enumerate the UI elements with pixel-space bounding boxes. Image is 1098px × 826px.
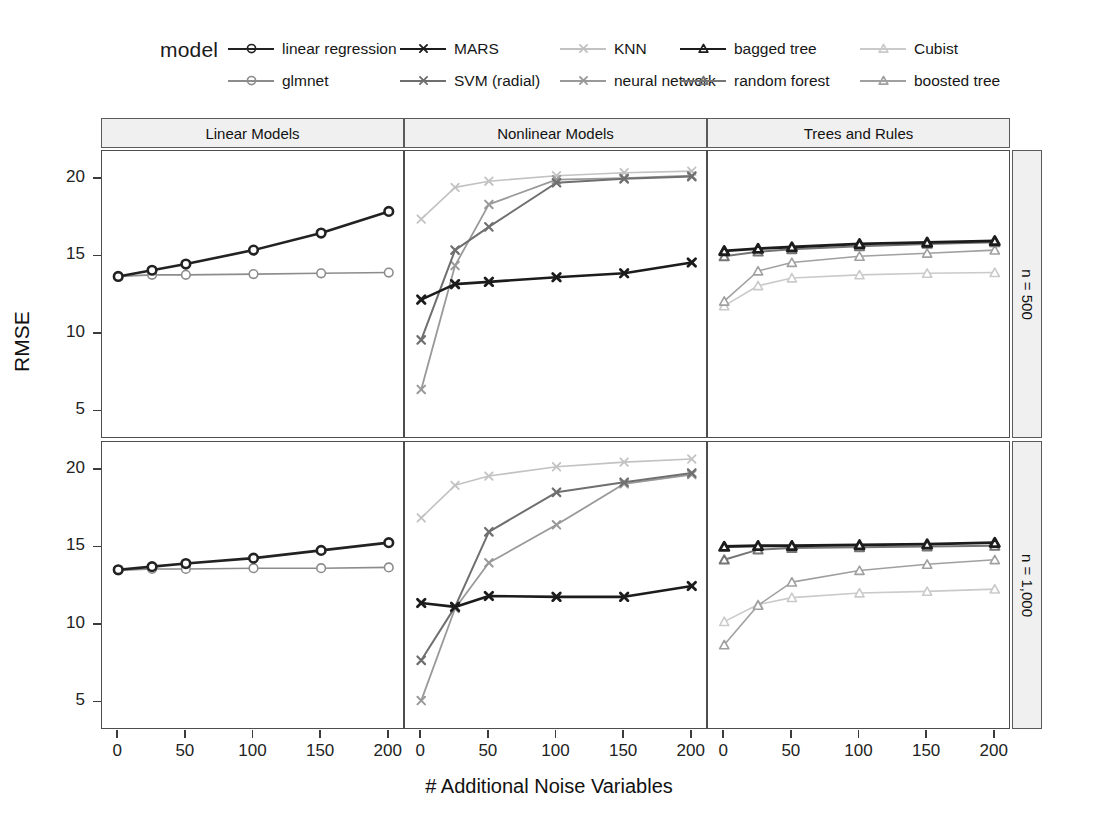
y-tick-label: 5: [51, 399, 85, 419]
data-point: [384, 268, 393, 277]
x-tick-label: 50: [468, 741, 508, 761]
series-knn: [417, 455, 695, 521]
y-tick-label: 15: [51, 244, 85, 264]
data-point: [417, 215, 425, 223]
panel-trees-and-rules-n-1-000: [707, 441, 1010, 729]
data-point: [923, 238, 932, 246]
data-point: [787, 541, 796, 549]
facet-strip-row-2: n = 1,000: [1012, 441, 1042, 729]
x-axis-label: # Additional Noise Variables: [0, 775, 1098, 798]
data-point: [753, 541, 762, 549]
x-tick-mark: [487, 730, 489, 738]
data-point: [249, 564, 258, 573]
data-point: [114, 565, 123, 574]
x-tick-label: 150: [300, 741, 340, 761]
plot-area: Linear ModelsNonlinear ModelsTrees and R…: [0, 0, 1098, 826]
x-tick-mark: [858, 730, 860, 738]
x-tick-mark: [387, 730, 389, 738]
facet-strip-label: n = 1,000: [1019, 554, 1036, 617]
data-point: [753, 244, 762, 252]
panel-nonlinear-models-n-500: [404, 150, 707, 438]
x-tick-label: 150: [603, 741, 643, 761]
data-point: [855, 541, 864, 549]
x-tick-label: 0: [97, 741, 137, 761]
y-tick-mark: [93, 410, 101, 412]
y-tick-mark: [93, 701, 101, 703]
data-point: [485, 223, 493, 231]
y-tick-mark: [93, 546, 101, 548]
facet-strip-row-1: n = 500: [1012, 150, 1042, 438]
x-tick-label: 0: [400, 741, 440, 761]
panel-trees-and-rules-n-500: [707, 150, 1010, 438]
data-point: [182, 271, 191, 280]
data-point: [249, 270, 258, 279]
y-tick-label: 20: [51, 167, 85, 187]
chart-root: model linear regressionglmnetMARSSVM (ra…: [0, 0, 1098, 826]
series-neural-network: [417, 471, 695, 705]
data-point: [317, 229, 326, 238]
series-knn: [417, 167, 695, 223]
data-point: [114, 272, 123, 281]
data-point: [417, 697, 425, 705]
x-tick-label: 0: [703, 741, 743, 761]
data-point: [417, 514, 425, 522]
series-bagged-tree: [720, 538, 1000, 550]
series-mars: [417, 259, 695, 304]
data-point: [990, 236, 999, 244]
data-point: [417, 657, 425, 665]
data-point: [384, 207, 393, 216]
series-svm-radial-: [417, 469, 695, 664]
y-tick-label: 15: [51, 535, 85, 555]
data-point: [317, 564, 326, 573]
series-cubist: [720, 585, 1000, 626]
facet-strip-label: Trees and Rules: [804, 125, 914, 142]
x-tick-mark: [116, 730, 118, 738]
panel-nonlinear-models-n-1-000: [404, 441, 707, 729]
x-tick-mark: [622, 730, 624, 738]
data-point: [855, 240, 864, 248]
facet-strip-column-3: Trees and Rules: [707, 118, 1010, 148]
facet-strip-label: n = 500: [1019, 269, 1036, 319]
data-point: [485, 201, 493, 209]
x-tick-mark: [925, 730, 927, 738]
facet-strip-column-1: Linear Models: [101, 118, 404, 148]
x-tick-label: 50: [771, 741, 811, 761]
data-point: [485, 528, 493, 536]
x-tick-label: 50: [165, 741, 205, 761]
data-point: [923, 540, 932, 548]
y-tick-mark: [93, 332, 101, 334]
series-boosted-tree: [720, 555, 1000, 648]
data-point: [384, 563, 393, 572]
data-point: [553, 521, 561, 529]
data-point: [317, 546, 326, 555]
data-point: [787, 243, 796, 251]
data-point: [182, 559, 191, 568]
x-tick-mark: [690, 730, 692, 738]
data-point: [317, 269, 326, 278]
x-tick-mark: [184, 730, 186, 738]
y-tick-label: 10: [51, 613, 85, 633]
facet-strip-column-2: Nonlinear Models: [404, 118, 707, 148]
facet-strip-label: Nonlinear Models: [497, 125, 614, 142]
y-tick-label: 20: [51, 458, 85, 478]
y-tick-mark: [93, 255, 101, 257]
x-tick-label: 150: [906, 741, 946, 761]
x-tick-mark: [555, 730, 557, 738]
y-tick-label: 10: [51, 322, 85, 342]
data-point: [720, 555, 729, 563]
x-tick-label: 200: [974, 741, 1014, 761]
x-tick-label: 100: [839, 741, 879, 761]
x-tick-mark: [319, 730, 321, 738]
data-point: [485, 559, 493, 567]
data-point: [249, 554, 258, 563]
data-point: [990, 538, 999, 546]
facet-strip-label: Linear Models: [205, 125, 299, 142]
data-point: [249, 246, 258, 255]
x-tick-label: 100: [233, 741, 273, 761]
data-point: [720, 246, 729, 254]
data-point: [720, 542, 729, 550]
x-tick-mark: [993, 730, 995, 738]
x-tick-mark: [419, 730, 421, 738]
x-tick-mark: [722, 730, 724, 738]
data-point: [720, 617, 729, 625]
